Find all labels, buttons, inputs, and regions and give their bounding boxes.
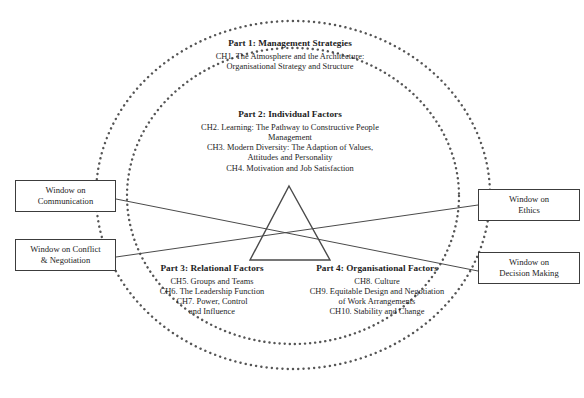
part-2-chapter-line: CH3. Modern Diversity: The Adaption of V…	[168, 143, 412, 153]
window-on-ethics-box[interactable]: Window on Ethics	[478, 189, 580, 221]
part-1-chapter-line: CH1. The Atmosphere and the Architecture…	[172, 52, 408, 62]
window-on-decision-making-box[interactable]: Window on Decision Making	[478, 252, 580, 284]
part-4-text-block: Part 4: Organisational Factors CH8. Cult…	[288, 263, 466, 318]
window-on-decision-making-label: Window on Decision Making	[499, 257, 558, 279]
window-label-line: Window on	[499, 257, 558, 268]
part-3-chapter-line: CH5. Groups and Teams	[138, 277, 286, 287]
window-on-communication-box[interactable]: Window on Communication	[15, 180, 116, 212]
part-4-chapter-line: CH10. Stability and Change	[288, 307, 466, 317]
part-4-chapter-line: CH8. Culture	[288, 277, 466, 287]
window-on-communication-label: Window on Communication	[38, 185, 93, 207]
central-triangle	[250, 186, 330, 260]
window-label-line: Ethics	[509, 205, 549, 216]
part-4-title: Part 4: Organisational Factors	[288, 263, 466, 274]
part-2-chapter-line: Management	[168, 133, 412, 143]
part-3-text-block: Part 3: Relational Factors CH5. Groups a…	[138, 263, 286, 318]
window-on-ethics-label: Window on Ethics	[509, 194, 549, 216]
part-2-chapters: CH2. Learning: The Pathway to Constructi…	[168, 123, 412, 174]
part-2-chapter-line: CH2. Learning: The Pathway to Constructi…	[168, 123, 412, 133]
window-label-line: & Negotiation	[30, 255, 100, 266]
window-label-line: Window on Conflict	[30, 244, 100, 255]
part-1-text-block: Part 1: Management Strategies CH1. The A…	[172, 38, 408, 72]
part-1-title: Part 1: Management Strategies	[172, 38, 408, 49]
part-3-title: Part 3: Relational Factors	[138, 263, 286, 274]
window-label-line: Communication	[38, 196, 93, 207]
part-2-chapter-line: Attitudes and Personality	[168, 153, 412, 163]
part-2-text-block: Part 2: Individual Factors CH2. Learning…	[168, 109, 412, 174]
part-4-chapter-line: CH9. Equitable Design and Negotiation	[288, 287, 466, 297]
window-on-conflict-label: Window on Conflict & Negotiation	[30, 244, 100, 266]
part-3-chapter-line: and Influence	[138, 307, 286, 317]
part-3-chapter-line: CH6. The Leadership Function	[138, 287, 286, 297]
diagram-canvas: Part 1: Management Strategies CH1. The A…	[0, 0, 584, 398]
part-3-chapters: CH5. Groups and Teams CH6. The Leadershi…	[138, 277, 286, 318]
part-2-title: Part 2: Individual Factors	[168, 109, 412, 120]
part-4-chapters: CH8. Culture CH9. Equitable Design and N…	[288, 277, 466, 318]
window-label-line: Decision Making	[499, 268, 558, 279]
part-2-chapter-line: CH4. Motivation and Job Satisfaction	[168, 164, 412, 174]
connector-conflict-to-ethics	[116, 205, 478, 257]
part-1-chapter-line: Organisational Strategy and Structure	[172, 62, 408, 72]
window-on-conflict-box[interactable]: Window on Conflict & Negotiation	[15, 239, 116, 271]
part-1-chapters: CH1. The Atmosphere and the Architecture…	[172, 52, 408, 73]
part-3-chapter-line: CH7. Power, Control	[138, 297, 286, 307]
part-4-chapter-line: of Work Arrangements	[288, 297, 466, 307]
window-label-line: Window on	[509, 194, 549, 205]
window-label-line: Window on	[38, 185, 93, 196]
